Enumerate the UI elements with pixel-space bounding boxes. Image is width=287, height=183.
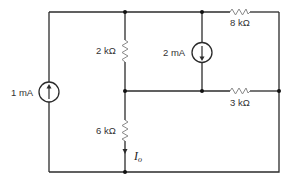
- resistor-2k: 2 kΩ: [96, 40, 128, 62]
- resistor-3k: 3 kΩ: [230, 88, 250, 108]
- source-1ma-label: 1 mA: [11, 87, 34, 98]
- resistor-6k-label: 6 kΩ: [96, 125, 116, 136]
- circuit-diagram: 2 kΩ 6 kΩ 8 kΩ 3 kΩ 1 mA 2 mA Io: [0, 0, 287, 183]
- resistor-2k-label: 2 kΩ: [96, 45, 116, 56]
- current-source-1ma: 1 mA: [11, 82, 59, 102]
- resistor-6k: 6 kΩ: [96, 120, 128, 141]
- resistor-8k: 8 kΩ: [230, 9, 250, 28]
- io-label: Io: [133, 149, 142, 164]
- resistor-3k-label: 3 kΩ: [230, 97, 250, 108]
- resistor-8k-label: 8 kΩ: [230, 17, 250, 28]
- current-source-2ma: 2 mA: [163, 43, 212, 63]
- arrow-down-icon: [123, 149, 128, 154]
- source-2ma-label: 2 mA: [163, 47, 186, 58]
